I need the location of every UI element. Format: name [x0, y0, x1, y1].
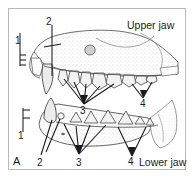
label-upper-4: 4: [140, 99, 146, 109]
orbit: [85, 45, 95, 55]
label-upper-2: 2: [46, 17, 52, 27]
label-lower-3: 3: [76, 158, 82, 168]
upper-canine: [42, 64, 53, 94]
upper-posterior-palate: [160, 66, 178, 76]
lower-fan-4-arrowhead: [128, 147, 136, 156]
plate-letter: A: [13, 156, 20, 167]
label-lower-1: 1: [18, 131, 24, 141]
upper-fan-4-arrowhead: [140, 90, 147, 98]
mental-foramen: [61, 133, 65, 135]
label-lower-4: 4: [128, 157, 134, 167]
lower-jaw-panel: [39, 98, 177, 148]
lower-canine: [44, 98, 56, 123]
lower-jaw-caption: Lower jaw: [139, 157, 186, 168]
lower-bracket-1-leader: [23, 108, 30, 132]
upper-incisor-block: [31, 58, 43, 76]
upper-cranium-outline: [34, 30, 178, 76]
figure-root: Upper jaw 1 2 3 4 1 2 3 4 Lower jaw A: [0, 0, 194, 178]
label-lower-2: 2: [37, 158, 43, 168]
label-upper-3: 3: [80, 106, 86, 116]
upper-jaw-caption: Upper jaw: [127, 20, 174, 31]
label-upper-1: 1: [15, 36, 21, 46]
lower-incisor: [58, 113, 64, 119]
